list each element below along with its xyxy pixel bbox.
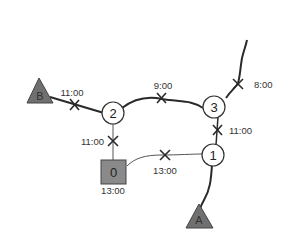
time-label-node-0: 13:00 [101,185,125,196]
node-1-label: 1 [209,148,216,163]
node-3-label: 3 [210,100,217,115]
network-diagram: B A 2 3 1 0 11:00 9:00 8:00 11:00 11:00 … [0,0,293,239]
node-3[interactable]: 3 [203,96,225,118]
time-label-3-1: 11:00 [229,125,252,136]
time-label-2-0: 11:00 [81,136,104,147]
time-label-2-3: 9:00 [154,80,173,91]
time-label-0-1: 13:00 [153,165,177,176]
edge-1-a [199,165,212,212]
node-1[interactable]: 1 [202,144,224,166]
node-2-label: 2 [109,106,116,121]
node-2[interactable]: 2 [102,102,124,124]
time-label-b-2: 11:00 [60,87,83,98]
edge-3-top [226,40,247,98]
terminal-a-label: A [195,214,203,226]
terminal-b-label: B [36,90,43,102]
node-0[interactable]: 0 [101,160,126,184]
edge-b-2 [50,97,104,113]
terminal-a[interactable]: A [186,204,213,228]
terminal-b[interactable]: B [27,78,53,103]
node-0-label: 0 [110,165,117,180]
time-label-3-top: 8:00 [254,79,273,90]
